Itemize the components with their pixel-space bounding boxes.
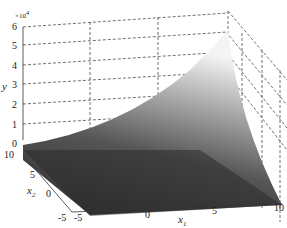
surface-plot: 6 5 4 3 2 1 0 ×104 y 10 5 0 -5 x2 -5 0 5… [0, 0, 287, 228]
svg-text:0: 0 [46, 188, 51, 199]
z-axis-label: y [1, 80, 7, 92]
svg-text:-5: -5 [58, 212, 66, 223]
svg-text:6: 6 [12, 21, 17, 32]
svg-text:0: 0 [145, 209, 150, 220]
svg-text:3: 3 [12, 79, 17, 90]
svg-text:4: 4 [12, 60, 17, 71]
svg-text:5: 5 [30, 169, 35, 180]
x2-axis-label: x2 [26, 184, 36, 199]
svg-text:1: 1 [12, 119, 17, 130]
x1-axis-label: x1 [177, 213, 186, 228]
svg-text:5: 5 [12, 40, 17, 51]
svg-text:10: 10 [274, 202, 284, 213]
svg-text:5: 5 [212, 205, 217, 216]
z-ticks: 6 5 4 3 2 1 0 [12, 21, 17, 149]
svg-text:-5: -5 [74, 212, 82, 223]
svg-text:10: 10 [4, 149, 14, 160]
svg-text:0: 0 [12, 138, 17, 149]
svg-text:2: 2 [12, 99, 17, 110]
z-multiplier: ×104 [15, 10, 29, 20]
